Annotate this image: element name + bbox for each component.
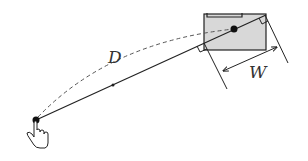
target-center-dot bbox=[231, 26, 238, 33]
distance-label: D bbox=[107, 47, 122, 67]
fitts-law-diagram: D W bbox=[0, 0, 308, 161]
width-label: W bbox=[249, 62, 268, 82]
boundary-line-far bbox=[265, 15, 288, 63]
midpoint-tick bbox=[112, 84, 115, 87]
hand-pointer-icon bbox=[27, 121, 48, 148]
